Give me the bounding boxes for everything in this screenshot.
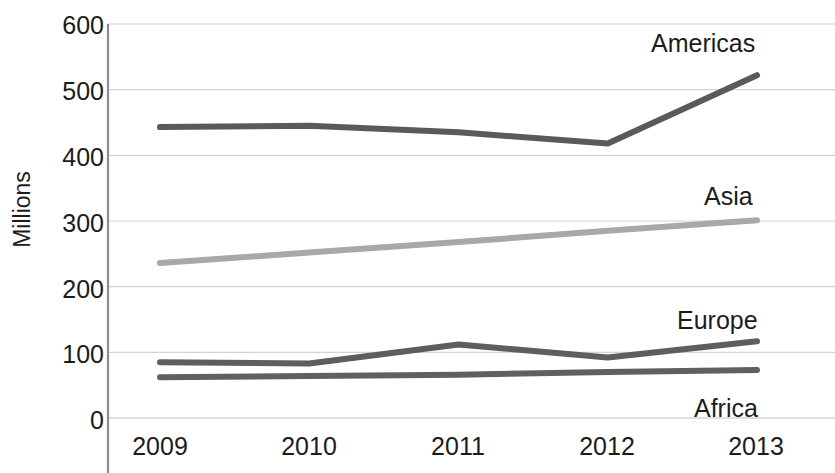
x-tick-label-2013: 2013 <box>696 432 816 461</box>
y-tick-label-600: 600 <box>24 11 104 40</box>
x-tick-label-2010: 2010 <box>249 432 369 461</box>
y-tick-label-100: 100 <box>24 340 104 369</box>
y-tick-label-400: 400 <box>24 143 104 172</box>
series-label-americas: Americas <box>651 29 755 58</box>
y-tick-label-500: 500 <box>24 77 104 106</box>
series-label-asia: Asia <box>704 182 753 211</box>
y-tick-label-200: 200 <box>24 275 104 304</box>
x-tick-label-2009: 2009 <box>100 432 220 461</box>
y-tick-label-0: 0 <box>24 406 104 435</box>
y-tick-label-300: 300 <box>24 209 104 238</box>
line-chart: Millions 600 500 400 300 200 100 0 2009 … <box>0 0 835 473</box>
series-line-americas <box>160 75 757 143</box>
series-line-asia <box>160 220 757 263</box>
x-tick-label-2012: 2012 <box>547 432 667 461</box>
series-label-europe: Europe <box>677 306 758 335</box>
series-label-africa: Africa <box>694 394 758 423</box>
x-tick-label-2011: 2011 <box>398 432 518 461</box>
series-line-africa <box>160 370 757 377</box>
series-line-group <box>160 75 757 377</box>
